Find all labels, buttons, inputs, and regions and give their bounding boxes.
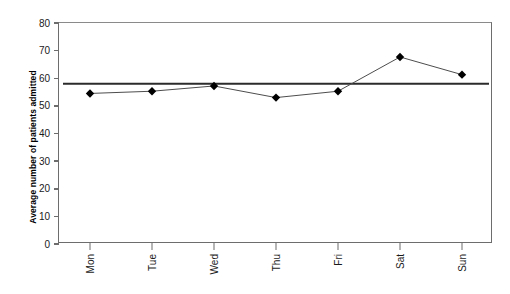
x-axis-tick: Tue — [147, 242, 158, 271]
y-axis-tick-mark — [54, 78, 59, 80]
x-axis-tick-mark — [399, 242, 401, 250]
data-point-marker — [272, 93, 280, 101]
data-point-marker — [148, 87, 156, 95]
plot-area: 01020304050607080 MonTueWedThuFriSatSun — [58, 22, 492, 243]
x-axis-tick-label: Thu — [271, 254, 282, 271]
y-axis-tick-mark — [54, 160, 59, 162]
x-axis-tick: Mon — [85, 242, 96, 273]
y-axis-tick-label: 40 — [39, 128, 54, 139]
y-axis-tick: 40 — [39, 128, 59, 140]
x-axis-tick-label: Tue — [147, 254, 158, 271]
y-axis-tick-mark — [54, 216, 59, 218]
y-axis-tick-mark — [54, 133, 59, 135]
x-axis-tick-label: Sun — [457, 254, 468, 272]
y-axis-tick: 0 — [44, 238, 59, 250]
y-axis-tick-label: 60 — [39, 73, 54, 84]
x-axis-tick-mark — [337, 242, 339, 250]
x-axis-tick-mark — [89, 242, 91, 250]
y-axis-tick: 80 — [39, 17, 59, 29]
series-line — [90, 57, 462, 98]
y-axis-tick: 70 — [39, 45, 59, 57]
x-axis-tick-mark — [213, 242, 215, 250]
y-axis-tick: 50 — [39, 100, 59, 112]
data-point-marker — [458, 70, 466, 78]
y-axis-tick: 10 — [39, 210, 59, 222]
data-point-marker — [86, 89, 94, 97]
x-axis-tick-mark — [275, 242, 277, 250]
chart-figure: Average number of patients admitted 0102… — [0, 0, 510, 294]
x-axis-tick-label: Mon — [85, 254, 96, 273]
x-axis-tick: Thu — [271, 242, 282, 271]
y-axis-tick: 60 — [39, 72, 59, 84]
y-axis-tick-label: 30 — [39, 156, 54, 167]
y-axis-tick: 30 — [39, 155, 59, 167]
y-axis-tick-label: 10 — [39, 211, 54, 222]
x-axis-tick: Sun — [457, 242, 468, 272]
y-axis-tick-mark — [54, 188, 59, 190]
y-axis-tick-mark — [54, 243, 59, 245]
x-axis-tick-label: Sat — [395, 254, 406, 269]
y-axis-tick-label: 70 — [39, 45, 54, 56]
data-point-marker — [334, 87, 342, 95]
y-axis-tick-mark — [54, 105, 59, 107]
y-axis-tick-label: 0 — [44, 239, 54, 250]
x-axis-tick: Sat — [395, 242, 406, 269]
data-layer — [59, 23, 493, 244]
x-axis-tick-label: Wed — [209, 254, 220, 274]
x-axis-tick-mark — [151, 242, 153, 250]
data-point-marker — [396, 53, 404, 61]
x-axis-tick: Fri — [333, 242, 344, 266]
y-axis-tick-label: 50 — [39, 100, 54, 111]
y-axis-tick-mark — [54, 50, 59, 52]
y-axis-tick-label: 80 — [39, 18, 54, 29]
x-axis-tick: Wed — [209, 242, 220, 274]
series-line-path — [90, 57, 462, 98]
series-markers — [86, 53, 466, 102]
x-axis-tick-label: Fri — [333, 254, 344, 266]
y-axis-tick-label: 20 — [39, 183, 54, 194]
x-axis-tick-mark — [461, 242, 463, 250]
y-axis-tick-mark — [54, 22, 59, 24]
y-axis-tick: 20 — [39, 183, 59, 195]
